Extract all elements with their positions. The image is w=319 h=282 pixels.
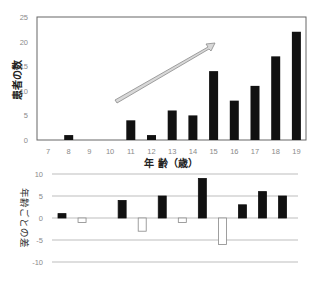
trend-arrow-icon <box>115 43 215 103</box>
top-bar <box>168 110 177 140</box>
bottom-y-tick: 0 <box>39 214 43 223</box>
top-x-tick: 11 <box>127 147 135 156</box>
top-x-tick: 15 <box>209 147 217 156</box>
top-x-tick: 14 <box>189 147 197 156</box>
top-x-tick: 12 <box>147 147 155 156</box>
top-y-tick: 0 <box>24 136 28 145</box>
top-bar <box>251 86 260 140</box>
age-difference-chart: 1050-5-10 年齢ごとの差 <box>19 170 298 267</box>
bottom-y-tick: 10 <box>35 170 43 179</box>
top-y-tick: 25 <box>20 13 28 22</box>
top-bar <box>230 101 239 140</box>
bottom-bar-positive <box>238 205 246 218</box>
bottom-gridlines: 1050-5-10 <box>32 170 298 267</box>
bottom-y-axis-label: 年齢ごとの差 <box>19 188 30 248</box>
top-x-tick: 16 <box>230 147 238 156</box>
patients-by-age-chart: 0510152025 78910111213141516171819 患者の数 … <box>11 13 306 169</box>
top-bars <box>64 32 301 140</box>
top-x-axis-ticks: 78910111213141516171819 <box>46 147 301 156</box>
top-x-tick: 8 <box>67 147 71 156</box>
bottom-bar-positive <box>279 196 287 218</box>
bottom-bars <box>58 178 287 244</box>
top-x-tick: 7 <box>46 147 50 156</box>
bottom-bar-negative <box>178 218 186 222</box>
bottom-bar-positive <box>259 192 267 218</box>
top-y-tick: 5 <box>24 111 28 120</box>
bottom-bar-negative <box>218 218 226 244</box>
top-bar <box>126 120 135 140</box>
bottom-bar-positive <box>158 196 166 218</box>
top-y-tick: 20 <box>20 38 28 47</box>
top-y-axis-label: 患者の数 <box>11 59 23 100</box>
top-bar <box>147 135 156 140</box>
chart-canvas: 0510152025 78910111213141516171819 患者の数 … <box>0 0 319 282</box>
top-x-tick: 13 <box>168 147 176 156</box>
bottom-bar-positive <box>198 178 206 218</box>
top-x-tick: 18 <box>272 147 280 156</box>
bottom-bar-negative <box>138 218 146 231</box>
top-x-tick: 9 <box>87 147 91 156</box>
top-bar <box>209 71 218 140</box>
top-bar <box>271 56 280 140</box>
top-bar <box>188 115 197 140</box>
top-x-tick: 17 <box>251 147 259 156</box>
top-bar <box>292 32 301 140</box>
top-x-tick: 19 <box>292 147 300 156</box>
bottom-bar-positive <box>58 214 66 218</box>
bottom-bar-negative <box>78 218 86 222</box>
bottom-bar-positive <box>118 200 126 218</box>
bottom-y-tick: 5 <box>39 192 43 201</box>
top-x-axis-label: 年 齢（歳） <box>144 157 197 169</box>
bottom-y-tick: -5 <box>36 236 43 245</box>
top-x-tick: 10 <box>106 147 114 156</box>
bottom-y-tick: -10 <box>32 258 43 267</box>
top-bar <box>64 135 73 140</box>
